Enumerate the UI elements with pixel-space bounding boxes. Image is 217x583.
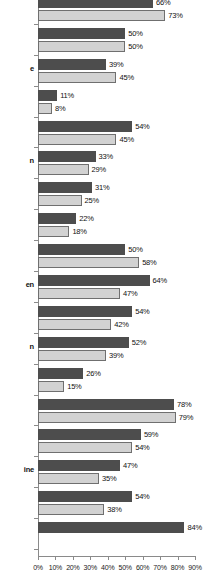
y-axis-tick [34, 240, 38, 241]
x-axis-tick [178, 556, 179, 560]
bar-value-label: 26% [86, 368, 100, 379]
bar-series-1 [38, 0, 153, 8]
y-axis-tick [34, 209, 38, 210]
bar-series-1 [38, 151, 96, 162]
bar-group: 66%73% [38, 0, 217, 28]
bar-series-2 [38, 195, 82, 206]
bar-series-1 [38, 337, 129, 348]
y-axis-tick [34, 518, 38, 519]
bar-series-2 [38, 319, 111, 330]
bar-value-label: 31% [95, 182, 109, 193]
x-axis-tick-label: 10% [49, 564, 62, 571]
bar-group: 64%47%en [38, 275, 217, 306]
x-axis-tick-label: 70% [153, 564, 166, 571]
bar-series-2 [38, 504, 104, 515]
bar-series-2 [38, 473, 99, 484]
bar-value-label: 47% [123, 288, 137, 299]
bar-series-1 [38, 368, 83, 379]
category-label: e [30, 64, 34, 73]
bar-value-label: 54% [135, 121, 149, 132]
bar-chart: 66%73%50%50%39%45%e11%8%54%45%33%29%n31%… [0, 0, 217, 583]
x-axis-tick [160, 556, 161, 560]
x-axis-tick-label: 30% [84, 564, 97, 571]
bar-group: 11%8% [38, 90, 217, 121]
x-axis-tick-label: 80% [171, 564, 184, 571]
bar-value-label: 33% [99, 151, 113, 162]
bar-value-label: 39% [109, 350, 123, 361]
bar-value-label: 42% [114, 319, 128, 330]
x-axis-tick-label: 60% [136, 564, 149, 571]
x-axis-tick-label: 40% [101, 564, 114, 571]
bar-group: 50%58% [38, 244, 217, 275]
bar-value-label: 54% [135, 491, 149, 502]
bar-value-label: 35% [102, 473, 116, 484]
x-axis-tick [90, 556, 91, 560]
x-axis-tick [195, 556, 196, 560]
bar-value-label: 38% [107, 504, 121, 515]
bar-series-1 [38, 244, 125, 255]
bar-value-label: 78% [177, 399, 191, 410]
y-axis-tick [34, 302, 38, 303]
bar-group: 26%15% [38, 368, 217, 399]
bar-group: 22%18% [38, 213, 217, 244]
bar-value-label: 73% [168, 10, 182, 21]
bar-series-1 [38, 59, 106, 70]
bar-group: 54%45% [38, 121, 217, 152]
y-axis-tick [34, 55, 38, 56]
bar-series-2 [38, 412, 176, 423]
bar-group: 84% [38, 522, 217, 553]
y-axis-tick [34, 271, 38, 272]
x-axis-tick-label: 0% [33, 564, 43, 571]
bar-group: 54%38% [38, 491, 217, 522]
bar-value-label: 47% [123, 460, 137, 471]
bar-series-1 [38, 90, 57, 101]
bar-value-label: 45% [119, 72, 133, 83]
bar-series-2 [38, 10, 165, 21]
category-label: n [30, 156, 34, 165]
x-axis-tick [55, 556, 56, 560]
bar-series-1 [38, 121, 132, 132]
bar-series-1 [38, 460, 120, 471]
bar-value-label: 58% [142, 257, 156, 268]
y-axis-tick [34, 178, 38, 179]
x-axis-tick [73, 556, 74, 560]
bar-value-label: 8% [55, 103, 65, 114]
bar-series-1 [38, 182, 92, 193]
bar-series-1 [38, 306, 132, 317]
bar-value-label: 54% [135, 442, 149, 453]
bar-value-label: 66% [156, 0, 170, 8]
bar-group: 39%45%e [38, 59, 217, 90]
y-axis-tick [34, 86, 38, 87]
bar-series-2 [38, 164, 89, 175]
x-axis-tick [143, 556, 144, 560]
bar-series-2 [38, 72, 116, 83]
bar-value-label: 11% [60, 90, 74, 101]
bar-series-1 [38, 213, 76, 224]
bar-series-2 [38, 381, 64, 392]
bar-value-label: 29% [92, 164, 106, 175]
category-label: ine [24, 465, 34, 474]
category-label: n [30, 342, 34, 351]
bar-series-1 [38, 491, 132, 502]
bar-series-2 [38, 442, 132, 453]
bar-series-1 [38, 399, 174, 410]
x-axis-line [38, 556, 196, 557]
bar-value-label: 18% [72, 226, 86, 237]
y-axis-tick [34, 24, 38, 25]
bar-value-label: 59% [144, 429, 158, 440]
bar-group: 31%25% [38, 182, 217, 213]
plot-area: 66%73%50%50%39%45%e11%8%54%45%33%29%n31%… [0, 0, 217, 556]
bar-value-label: 50% [128, 244, 142, 255]
x-axis-tick-label: 90% [188, 564, 201, 571]
x-axis-tick-label: 50% [118, 564, 131, 571]
bar-series-2 [38, 134, 116, 145]
bar-series-2 [38, 288, 120, 299]
bar-series-1 [38, 522, 184, 533]
bar-series-1 [38, 275, 150, 286]
bar-value-label: 50% [128, 28, 142, 39]
bar-value-label: 84% [187, 522, 201, 533]
bar-value-label: 54% [135, 306, 149, 317]
y-axis-tick [34, 456, 38, 457]
y-axis-tick [34, 117, 38, 118]
y-axis-tick [34, 333, 38, 334]
